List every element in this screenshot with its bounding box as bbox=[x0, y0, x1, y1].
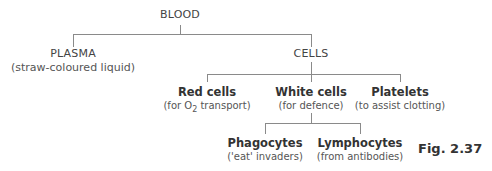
node-phagocytes-sub: ('eat' invaders) bbox=[227, 150, 303, 164]
node-cells: CELLS bbox=[294, 47, 329, 61]
node-blood-label: BLOOD bbox=[160, 8, 200, 21]
node-plasma-sub: (straw-coloured liquid) bbox=[11, 61, 135, 75]
connector-white-down bbox=[311, 113, 312, 123]
node-phagocytes-label: Phagocytes bbox=[227, 136, 303, 150]
node-red-cells-sub: (for O2 transport) bbox=[163, 99, 250, 117]
connector-lymphocytes bbox=[360, 123, 361, 134]
connector-cells-bar bbox=[207, 74, 401, 75]
connector-blood-down bbox=[180, 25, 181, 34]
node-platelets: Platelets (to assist clotting) bbox=[355, 85, 445, 113]
connector-phagocytes bbox=[265, 123, 266, 134]
node-blood: BLOOD bbox=[160, 8, 200, 22]
connector-plasma bbox=[73, 34, 74, 47]
connector-platelets bbox=[400, 74, 401, 82]
node-lymphocytes: Lymphocytes (from antibodies) bbox=[317, 136, 403, 164]
node-plasma-label: PLASMA bbox=[11, 47, 135, 61]
connector-cells-down bbox=[311, 62, 312, 82]
node-lymphocytes-sub: (from antibodies) bbox=[317, 150, 403, 164]
connector-cells bbox=[311, 34, 312, 47]
node-cells-label: CELLS bbox=[294, 47, 329, 60]
node-red-cells: Red cells (for O2 transport) bbox=[163, 85, 250, 117]
node-red-cells-label: Red cells bbox=[163, 85, 250, 99]
node-white-cells: White cells (for defence) bbox=[275, 85, 346, 113]
node-phagocytes: Phagocytes ('eat' invaders) bbox=[227, 136, 303, 164]
node-platelets-sub: (to assist clotting) bbox=[355, 99, 445, 113]
node-white-cells-sub: (for defence) bbox=[275, 99, 346, 113]
figure-label: Fig. 2.37 bbox=[418, 141, 482, 156]
node-white-cells-label: White cells bbox=[275, 85, 346, 99]
connector-red bbox=[207, 74, 208, 82]
node-plasma: PLASMA (straw-coloured liquid) bbox=[11, 47, 135, 75]
node-lymphocytes-label: Lymphocytes bbox=[317, 136, 403, 150]
connector-white-bar bbox=[265, 123, 361, 124]
connector-level1-bar bbox=[73, 34, 312, 35]
node-platelets-label: Platelets bbox=[355, 85, 445, 99]
